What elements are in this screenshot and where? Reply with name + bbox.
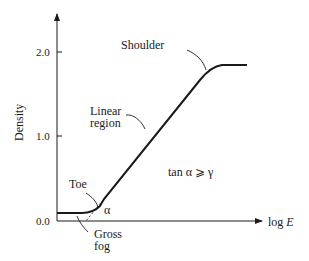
x-axis-label-prefix: log	[268, 215, 286, 229]
equation-label: tan α ⩾ γ	[168, 166, 213, 178]
alpha-dashed-extension	[86, 200, 103, 221]
linear-region-label-line2: region	[90, 117, 121, 129]
shoulder-leader	[187, 50, 206, 70]
linear-region-leader	[126, 115, 145, 129]
gross-fog-label-line2: fog	[94, 240, 110, 252]
y-tick-label-0: 0.0	[36, 215, 50, 227]
shoulder-label: Shoulder	[121, 39, 164, 51]
toe-label: Toe	[69, 178, 87, 190]
y-axis-label: Density	[13, 104, 25, 141]
gross-fog-leader	[77, 216, 88, 232]
x-axis-label: log E	[268, 216, 294, 228]
y-tick-label-1: 1.0	[36, 130, 50, 142]
toe-leader	[86, 193, 98, 207]
y-tick-label-2: 2.0	[36, 46, 50, 58]
x-axis-label-var: E	[286, 215, 293, 229]
alpha-label: α	[104, 204, 110, 216]
